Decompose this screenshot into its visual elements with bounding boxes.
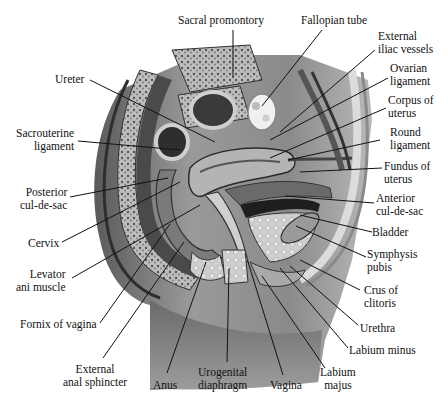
label-corpus-of-uterus: Corpus of uterus bbox=[388, 94, 434, 119]
label-urogenital-diaphragm: Urogenital diaphragm bbox=[198, 366, 247, 391]
label-urethra: Urethra bbox=[360, 322, 395, 335]
label-sacral-promontory: Sacral promontory bbox=[178, 14, 264, 27]
label-bladder: Bladder bbox=[372, 226, 408, 239]
label-symphysis-pubis: Symphysis pubis bbox=[367, 248, 418, 273]
label-cervix: Cervix bbox=[28, 237, 59, 250]
label-external-anal-sphincter: External anal sphincter bbox=[63, 363, 127, 388]
label-sacrouterine-ligament: Sacrouterine ligament bbox=[16, 127, 74, 152]
label-posterior-cul-de-sac: Posterior cul-de-sac bbox=[20, 186, 67, 211]
label-labium-majus: Labium majus bbox=[320, 366, 356, 391]
label-ovarian-ligament: Ovarian ligament bbox=[390, 62, 430, 87]
label-external-iliac-vessels: External iliac vessels bbox=[378, 30, 433, 55]
label-ureter: Ureter bbox=[55, 73, 84, 86]
label-levator-ani-muscle: Levator ani muscle bbox=[16, 268, 66, 293]
label-labium-minus: Labium minus bbox=[349, 344, 416, 357]
label-fundus-of-uterus: Fundus of uterus bbox=[384, 160, 430, 185]
label-crus-of-clitoris: Crus of clitoris bbox=[364, 284, 398, 309]
label-anus: Anus bbox=[153, 379, 177, 392]
label-round-ligament: Round ligament bbox=[390, 126, 430, 151]
anatomy-diagram: Sacral promontory Fallopian tube Externa… bbox=[0, 0, 448, 407]
label-anterior-cul-de-sac: Anterior cul-de-sac bbox=[376, 192, 423, 217]
label-fornix-of-vagina: Fornix of vagina bbox=[20, 318, 97, 331]
label-vagina: Vagina bbox=[270, 379, 302, 392]
label-fallopian-tube: Fallopian tube bbox=[301, 14, 367, 27]
